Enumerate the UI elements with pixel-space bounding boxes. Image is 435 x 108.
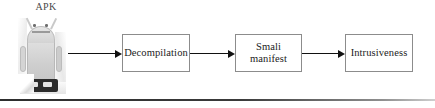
arrow-line <box>302 53 338 54</box>
robot-arm-right-icon <box>56 46 62 72</box>
apk-source-group: APK <box>12 1 74 95</box>
apk-label: APK <box>26 1 66 13</box>
node-smali-manifest-line-2: manifest <box>250 53 287 64</box>
robot-eye-right-icon <box>45 24 48 27</box>
robot-antenna-right-icon <box>50 18 57 29</box>
node-smali-manifest: Smali manifest <box>235 34 302 72</box>
robot-eye-left-icon <box>33 24 36 27</box>
arrow-head-icon <box>228 50 235 58</box>
node-intrusiveness: Intrusiveness <box>345 34 413 72</box>
flowchart-figure: APK Decompilation <box>0 0 435 108</box>
scan-streak <box>18 74 34 93</box>
arrow-line <box>68 53 115 54</box>
arrow-head-icon <box>115 50 122 58</box>
node-intrusiveness-label: Intrusiveness <box>351 47 408 60</box>
arrow-smali-to-intrusiveness <box>302 47 345 61</box>
node-smali-manifest-line-1: Smali <box>256 41 281 52</box>
node-decompilation-label: Decompilation <box>124 47 188 60</box>
arrow-line <box>190 53 228 54</box>
android-robot-icon <box>18 16 68 94</box>
robot-mouth-icon <box>32 31 50 33</box>
arrow-decompilation-to-smali <box>190 47 235 61</box>
arrow-apk-to-decompilation <box>68 47 122 61</box>
node-decompilation: Decompilation <box>122 34 190 72</box>
arrow-head-icon <box>338 50 345 58</box>
robot-arm-left-icon <box>20 46 26 72</box>
bottom-rule-divider <box>0 99 435 101</box>
robot-foot-right-icon <box>43 82 52 87</box>
node-smali-manifest-label: Smali manifest <box>250 41 287 66</box>
